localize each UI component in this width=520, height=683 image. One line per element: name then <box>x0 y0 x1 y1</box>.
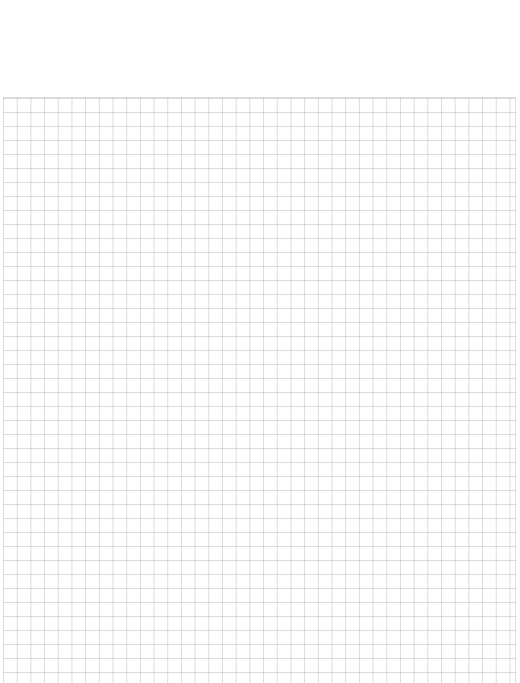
graph-paper-grid <box>3 97 516 683</box>
